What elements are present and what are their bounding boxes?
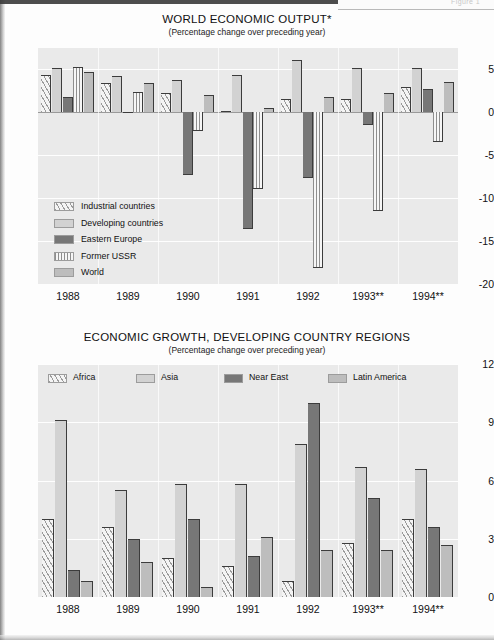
bar — [52, 68, 62, 113]
bar — [115, 490, 127, 597]
bar — [342, 543, 354, 597]
x-axis-tick-label: 1988 — [38, 290, 98, 302]
legend-swatch — [328, 374, 347, 383]
group-separator — [278, 48, 279, 284]
bar — [253, 112, 263, 188]
bar — [222, 566, 234, 597]
bar — [144, 83, 154, 112]
bar — [423, 89, 433, 112]
group-separator — [278, 364, 279, 597]
bar — [384, 93, 394, 112]
y-axis-tick-label: 0 — [462, 106, 494, 118]
bar — [133, 92, 143, 113]
chart-economic-growth-regions: ECONOMIC GROWTH, DEVELOPING COUNTRY REGI… — [0, 330, 494, 635]
bar — [55, 420, 67, 597]
bar — [235, 484, 247, 597]
x-axis-tick-label: 1989 — [98, 603, 158, 615]
bar — [292, 60, 302, 112]
bar — [264, 108, 274, 112]
legend-label: Industrial countries — [81, 201, 155, 211]
y-axis-tick-label: -10 — [462, 192, 494, 204]
bar — [161, 93, 171, 112]
legend-label: Near East — [249, 372, 288, 382]
bar — [415, 469, 427, 597]
group-separator — [98, 48, 99, 284]
chart1-title: WORLD ECONOMIC OUTPUT* — [0, 12, 494, 26]
bar — [63, 97, 73, 112]
bar — [363, 112, 373, 125]
x-axis-tick-label: 1994** — [398, 603, 458, 615]
legend-swatch — [54, 268, 74, 277]
legend-swatch — [48, 374, 67, 383]
legend-label: Africa — [73, 372, 96, 382]
x-axis-tick-label: 1993** — [338, 290, 398, 302]
x-axis-tick-label: 1988 — [38, 603, 98, 615]
y-axis-tick-label: 12 — [462, 358, 494, 370]
bar — [101, 83, 111, 112]
chart2-plot-area: AfricaAsiaNear EastLatin America12963019… — [0, 360, 494, 635]
bar — [282, 581, 294, 597]
x-axis-tick-label: 1990 — [158, 290, 218, 302]
bar — [221, 111, 231, 113]
x-axis-tick-label: 1993** — [338, 603, 398, 615]
y-axis-tick-label: 6 — [462, 475, 494, 487]
gridline — [38, 364, 458, 365]
x-axis-tick-label: 1991 — [218, 290, 278, 302]
x-axis-tick-label: 1992 — [278, 290, 338, 302]
bar — [308, 403, 320, 597]
bar — [428, 527, 440, 597]
x-axis-tick-label: 1989 — [98, 290, 158, 302]
bar — [295, 444, 307, 597]
bar — [281, 99, 291, 112]
y-axis-tick-label: -20 — [462, 278, 494, 290]
scanned-page: Figure 1 WORLD ECONOMIC OUTPUT* (Percent… — [0, 0, 494, 640]
plot-canvas: Industrial countriesDeveloping countries… — [38, 48, 458, 284]
legend-swatch — [54, 202, 74, 211]
y-axis-tick-label: -5 — [462, 149, 494, 161]
bar — [441, 545, 453, 597]
bar — [352, 68, 362, 113]
chart1-plot-area: Industrial countriesDeveloping countries… — [0, 42, 494, 322]
group-separator — [338, 364, 339, 597]
bar — [313, 112, 323, 267]
bar — [433, 112, 443, 142]
bar — [102, 527, 114, 597]
bar — [303, 112, 313, 177]
legend-label: World — [81, 267, 104, 277]
bar — [172, 80, 182, 113]
chart2-title: ECONOMIC GROWTH, DEVELOPING COUNTRY REGI… — [0, 330, 494, 344]
gridline — [38, 422, 458, 423]
legend-label: Asia — [161, 372, 178, 382]
group-separator — [218, 364, 219, 597]
bar — [188, 519, 200, 597]
bar — [321, 550, 333, 597]
x-axis-tick-label: 1990 — [158, 603, 218, 615]
gridline — [38, 539, 458, 540]
group-separator — [338, 48, 339, 284]
bar — [402, 519, 414, 597]
bar — [112, 76, 122, 112]
gridline — [38, 481, 458, 482]
y-axis-tick-label: -15 — [462, 235, 494, 247]
bar — [175, 484, 187, 597]
bar — [183, 112, 193, 175]
legend-label: Latin America — [353, 372, 406, 382]
bar — [355, 467, 367, 597]
legend-swatch — [136, 374, 155, 383]
chart-legend: AfricaAsiaNear EastLatin America — [48, 372, 454, 386]
legend-label: Former USSR — [81, 251, 136, 261]
y-axis-tick-label: 0 — [462, 591, 494, 603]
group-separator — [398, 48, 399, 284]
group-separator — [218, 48, 219, 284]
bar — [381, 550, 393, 597]
chart-world-economic-output: WORLD ECONOMIC OUTPUT* (Percentage chang… — [0, 12, 494, 322]
bar — [123, 112, 133, 114]
group-separator — [158, 48, 159, 284]
legend-swatch — [54, 219, 74, 228]
bar — [42, 519, 54, 597]
group-separator — [98, 364, 99, 597]
bar — [412, 68, 422, 113]
scan-top-edge-artifact — [0, 0, 338, 4]
y-axis-tick-label: 5 — [462, 63, 494, 75]
legend-swatch — [54, 252, 74, 261]
